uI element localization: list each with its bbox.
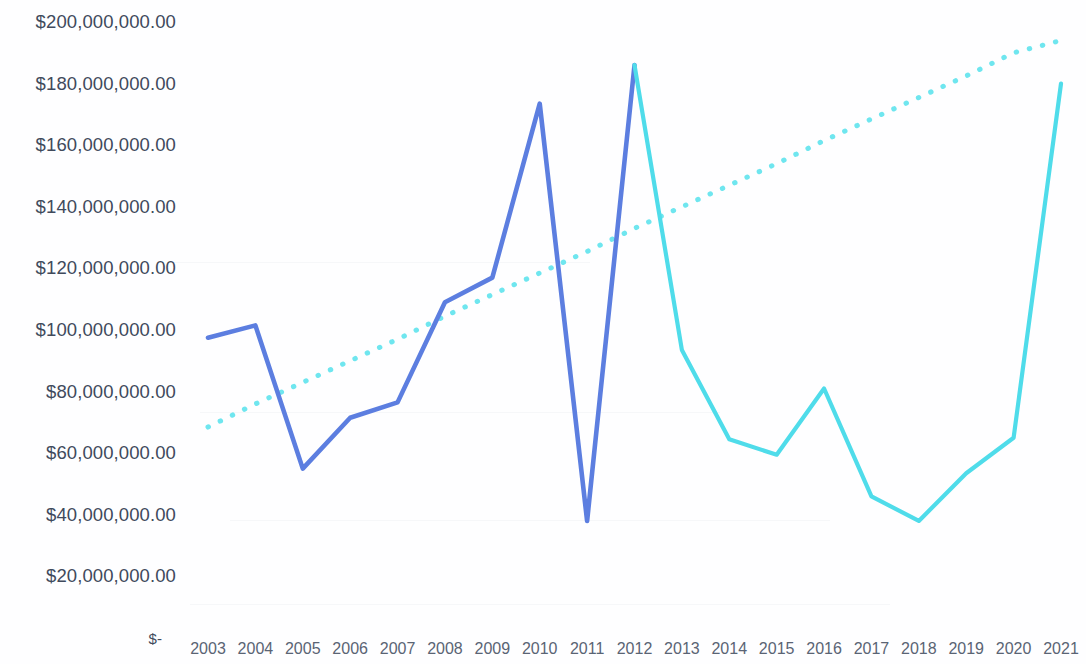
- x-axis-tick-label: 2012: [617, 640, 653, 658]
- x-axis-tick-label: 2006: [332, 640, 368, 658]
- x-axis-tick-label: 2014: [711, 640, 747, 658]
- x-axis-tick-label: 2003: [190, 640, 226, 658]
- x-axis-tick-label: 2007: [380, 640, 416, 658]
- x-axis-tick-label: 2020: [996, 640, 1032, 658]
- x-axis-tick-label: 2021: [1043, 640, 1079, 658]
- x-axis-tick-label: 2008: [427, 640, 463, 658]
- line-chart-figure: $200,000,000.00$180,000,000.00$160,000,0…: [0, 0, 1086, 664]
- x-axis-tick-label: 2010: [522, 640, 558, 658]
- x-axis: 2003200420052006200720082009201020112012…: [0, 0, 1086, 664]
- x-axis-tick-label: 2005: [285, 640, 321, 658]
- x-axis-tick-label: 2017: [854, 640, 890, 658]
- x-axis-tick-label: 2011: [570, 640, 604, 658]
- x-axis-tick-label: 2016: [806, 640, 842, 658]
- x-axis-tick-label: 2009: [475, 640, 511, 658]
- x-axis-tick-label: 2004: [238, 640, 274, 658]
- x-axis-tick-label: 2013: [664, 640, 700, 658]
- x-axis-tick-label: 2015: [759, 640, 795, 658]
- x-axis-tick-label: 2019: [948, 640, 984, 658]
- x-axis-tick-label: 2018: [901, 640, 937, 658]
